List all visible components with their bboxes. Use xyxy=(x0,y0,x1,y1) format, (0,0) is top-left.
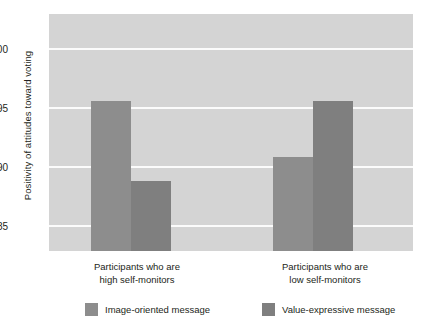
bar-group2-series2 xyxy=(313,101,353,251)
x-tick-label-line2: low self-monitors xyxy=(240,274,410,287)
y-axis-title: Positivity of attitudes toward voting xyxy=(22,26,33,226)
y-tick-label-100: 100 xyxy=(0,44,8,55)
legend-item-image-oriented: Image-oriented message xyxy=(85,301,210,317)
x-tick-label-high-self-monitors: Participants who are high self-monitors xyxy=(52,261,222,286)
x-tick-label-line1: Participants who are xyxy=(240,261,410,274)
bar-group1-series2 xyxy=(131,181,171,251)
bar-group2-series1 xyxy=(273,157,313,251)
chart-legend: Image-oriented message Value-expressive … xyxy=(49,301,413,321)
x-tick-label-line1: Participants who are xyxy=(52,261,222,274)
x-tick-label-low-self-monitors: Participants who are low self-monitors xyxy=(240,261,410,286)
bar-chart-figure: Positivity of attitudes toward voting 10… xyxy=(0,0,426,330)
bar-group1-series1 xyxy=(91,101,131,251)
plot-area xyxy=(49,14,413,251)
y-tick-label-85: 85 xyxy=(0,221,8,232)
y-tick-label-95: 95 xyxy=(0,103,8,114)
legend-item-value-expressive: Value-expressive message xyxy=(262,301,395,317)
legend-swatch-icon xyxy=(85,303,98,316)
legend-swatch-icon xyxy=(262,303,275,316)
x-tick-label-line2: high self-monitors xyxy=(52,274,222,287)
legend-label: Image-oriented message xyxy=(105,304,210,315)
y-tick-label-90: 90 xyxy=(0,162,8,173)
gridline-100 xyxy=(49,48,413,50)
legend-label: Value-expressive message xyxy=(282,304,395,315)
